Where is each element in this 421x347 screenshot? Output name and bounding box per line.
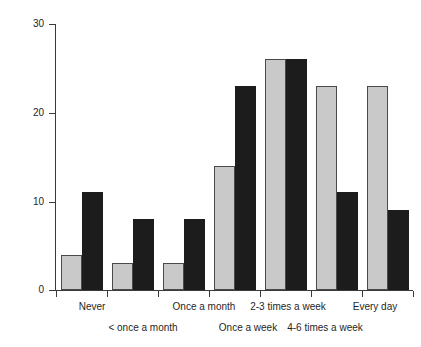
x-tick-4	[311, 291, 312, 297]
y-tick-10	[49, 202, 56, 203]
x-tick-6	[413, 291, 414, 297]
bar-series-dark-4	[286, 59, 307, 290]
x-tick-origin	[56, 291, 57, 297]
y-tick-label-20: 20	[10, 107, 44, 118]
x-label-never: Never	[79, 301, 106, 312]
x-axis-line	[55, 290, 413, 291]
x-label-once-a-month: Once a month	[173, 301, 236, 312]
x-label-less-once-month: < once a month	[108, 322, 177, 333]
y-tick-20	[49, 113, 56, 114]
plot-area	[56, 24, 413, 290]
bar-series-light-0	[61, 255, 82, 290]
bar-series-light-4	[265, 59, 286, 290]
y-axis-title: Per cent	[0, 110, 1, 170]
bar-series-light-3	[214, 166, 235, 290]
bar-series-dark-1	[133, 219, 154, 290]
x-label-once-a-week: Once a week	[219, 322, 277, 333]
bar-series-dark-2	[184, 219, 205, 290]
bar-series-light-1	[112, 263, 133, 290]
bar-series-dark-5	[337, 192, 358, 290]
bar-chart-figure: Per cent 30 20 10 0 Never < once a month…	[0, 0, 421, 347]
bar-series-light-5	[316, 86, 337, 290]
x-label-2-3-times-week: 2-3 times a week	[250, 301, 326, 312]
bar-series-dark-0	[82, 192, 103, 290]
x-tick-5	[362, 291, 363, 297]
y-tick-label-30: 30	[10, 18, 44, 29]
x-tick-0	[107, 291, 108, 297]
y-tick-label-10: 10	[10, 196, 44, 207]
x-label-4-6-times-week: 4-6 times a week	[287, 322, 363, 333]
bar-series-light-6	[367, 86, 388, 290]
y-tick-30	[49, 24, 56, 25]
x-tick-1	[158, 291, 159, 297]
x-label-every-day: Every day	[353, 301, 397, 312]
x-tick-3	[260, 291, 261, 297]
y-tick-label-0: 0	[10, 284, 44, 295]
bar-series-dark-3	[235, 86, 256, 290]
x-tick-2	[209, 291, 210, 297]
bar-series-dark-6	[388, 210, 409, 290]
bar-series-light-2	[163, 263, 184, 290]
